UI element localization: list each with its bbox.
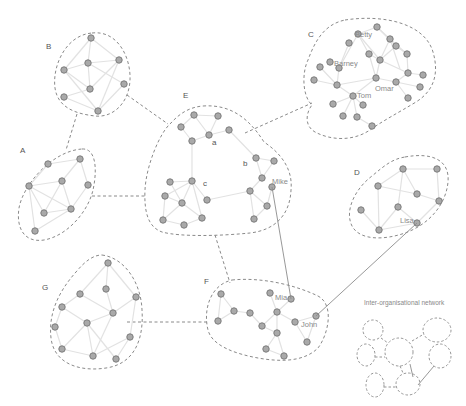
node[interactable] bbox=[45, 161, 51, 167]
node[interactable] bbox=[191, 112, 197, 118]
node[interactable] bbox=[103, 286, 109, 292]
node[interactable] bbox=[405, 70, 411, 76]
node[interactable] bbox=[189, 138, 195, 144]
node[interactable] bbox=[59, 346, 65, 352]
node[interactable] bbox=[358, 207, 364, 213]
node[interactable] bbox=[61, 67, 67, 73]
node[interactable] bbox=[59, 178, 65, 184]
node[interactable] bbox=[247, 310, 253, 316]
node[interactable] bbox=[77, 156, 83, 162]
node[interactable] bbox=[179, 200, 185, 206]
node[interactable] bbox=[160, 217, 166, 223]
node[interactable] bbox=[61, 94, 67, 100]
node[interactable] bbox=[374, 24, 380, 30]
node[interactable] bbox=[162, 193, 168, 199]
node-barney[interactable] bbox=[327, 59, 333, 65]
node[interactable] bbox=[393, 43, 399, 49]
node[interactable] bbox=[127, 334, 133, 340]
node[interactable] bbox=[400, 166, 406, 172]
mini-cluster-e bbox=[385, 338, 413, 366]
node[interactable] bbox=[113, 356, 119, 362]
cluster-f: F Mia John bbox=[204, 277, 328, 360]
legend-title: Inter-organisational network bbox=[364, 299, 445, 307]
node[interactable] bbox=[199, 215, 205, 221]
node[interactable] bbox=[420, 72, 426, 78]
node[interactable] bbox=[414, 191, 420, 197]
node[interactable] bbox=[32, 228, 38, 234]
node[interactable] bbox=[387, 36, 393, 42]
node[interactable] bbox=[85, 182, 91, 188]
mini-cluster-c bbox=[423, 318, 451, 342]
cluster-label-c: C bbox=[308, 30, 314, 39]
node[interactable] bbox=[263, 346, 269, 352]
node[interactable] bbox=[85, 60, 91, 66]
subgroup-label-b: b bbox=[243, 159, 248, 168]
node[interactable] bbox=[77, 291, 83, 297]
node[interactable] bbox=[259, 323, 265, 329]
node[interactable] bbox=[395, 204, 401, 210]
node[interactable] bbox=[375, 183, 381, 189]
node[interactable] bbox=[292, 319, 298, 325]
node[interactable] bbox=[84, 320, 90, 326]
node[interactable] bbox=[215, 113, 221, 119]
node[interactable] bbox=[253, 155, 259, 161]
node[interactable] bbox=[167, 179, 173, 185]
cluster-label-b: B bbox=[46, 42, 51, 51]
node[interactable] bbox=[105, 260, 111, 266]
node[interactable] bbox=[68, 206, 74, 212]
node[interactable] bbox=[393, 79, 399, 85]
node[interactable] bbox=[304, 339, 310, 345]
node[interactable] bbox=[317, 64, 323, 70]
node[interactable] bbox=[274, 309, 280, 315]
node[interactable] bbox=[218, 291, 224, 297]
node[interactable] bbox=[377, 57, 383, 63]
node[interactable] bbox=[417, 84, 423, 90]
node[interactable] bbox=[52, 324, 58, 330]
node[interactable] bbox=[259, 175, 265, 181]
node-tom[interactable] bbox=[350, 93, 356, 99]
node[interactable] bbox=[436, 198, 442, 204]
node[interactable] bbox=[267, 290, 273, 296]
node[interactable] bbox=[121, 81, 127, 87]
node[interactable] bbox=[178, 124, 184, 130]
node[interactable] bbox=[264, 203, 270, 209]
node[interactable] bbox=[110, 310, 116, 316]
node[interactable] bbox=[434, 166, 440, 172]
node[interactable] bbox=[366, 51, 372, 57]
node[interactable] bbox=[226, 127, 232, 133]
node[interactable] bbox=[90, 353, 96, 359]
bridge-b-e bbox=[127, 95, 168, 124]
node[interactable] bbox=[360, 102, 366, 108]
node[interactable] bbox=[354, 114, 360, 120]
node[interactable] bbox=[334, 82, 340, 88]
node[interactable] bbox=[274, 330, 280, 336]
mini-cluster-d bbox=[429, 344, 451, 368]
node[interactable] bbox=[133, 294, 139, 300]
node[interactable] bbox=[59, 304, 65, 310]
node[interactable] bbox=[181, 222, 187, 228]
person-label-barney: Barney bbox=[334, 59, 358, 68]
node[interactable] bbox=[251, 216, 257, 222]
node[interactable] bbox=[189, 178, 195, 184]
node[interactable] bbox=[281, 353, 287, 359]
node[interactable] bbox=[311, 77, 317, 83]
node[interactable] bbox=[271, 158, 277, 164]
node[interactable] bbox=[340, 113, 346, 119]
node[interactable] bbox=[330, 101, 336, 107]
node[interactable] bbox=[215, 318, 221, 324]
node[interactable] bbox=[247, 188, 253, 194]
node[interactable] bbox=[41, 210, 47, 216]
node[interactable] bbox=[204, 197, 210, 203]
node[interactable] bbox=[95, 108, 101, 114]
node[interactable] bbox=[26, 183, 32, 189]
node[interactable] bbox=[369, 123, 375, 129]
node[interactable] bbox=[376, 227, 382, 233]
node-omar[interactable] bbox=[373, 75, 379, 81]
node[interactable] bbox=[404, 51, 410, 57]
node[interactable] bbox=[87, 86, 93, 92]
node[interactable] bbox=[346, 40, 352, 46]
node[interactable] bbox=[405, 95, 411, 101]
node[interactable] bbox=[88, 35, 94, 41]
node[interactable] bbox=[231, 308, 237, 314]
node[interactable] bbox=[116, 57, 122, 63]
